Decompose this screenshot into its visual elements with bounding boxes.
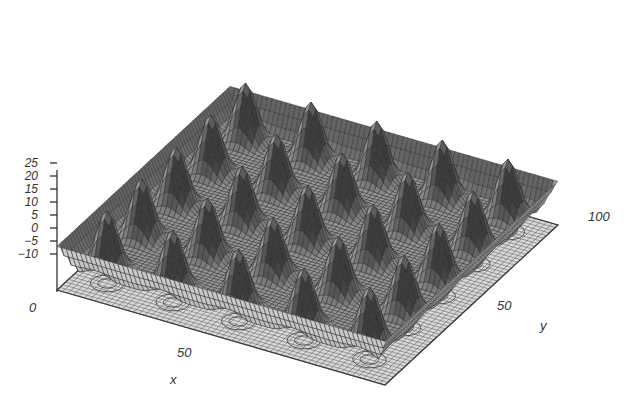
z-tick-15: 15: [4, 183, 38, 195]
z-axis: [50, 163, 57, 292]
y-tick-50: 50: [497, 298, 511, 313]
z-tick-0: 0: [4, 222, 38, 234]
surface-mesh: [0, 0, 627, 404]
z-tick-5: 5: [4, 209, 38, 221]
z-tick-10: 10: [4, 196, 38, 208]
surface-plot: 25 20 15 10 5 0 −5 −10 0 50 x 50 100 y: [0, 0, 627, 404]
z-tick-minus5: −5: [4, 235, 38, 247]
y-axis-label: y: [540, 318, 547, 333]
surface-wireframe: [57, 83, 558, 358]
x-tick-0: 0: [29, 300, 36, 315]
z-tick-25: 25: [4, 157, 38, 169]
z-tick-minus10: −10: [4, 248, 38, 260]
x-axis-label: x: [170, 372, 177, 387]
x-tick-50: 50: [177, 345, 191, 360]
y-tick-100: 100: [588, 209, 610, 224]
z-tick-20: 20: [4, 170, 38, 182]
